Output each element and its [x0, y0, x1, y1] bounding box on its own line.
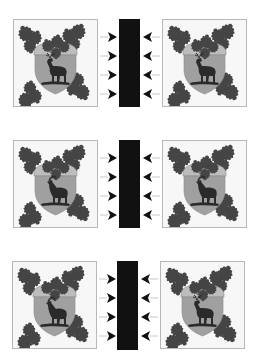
arrow-right-icon — [100, 191, 118, 201]
emblem-row-2 — [0, 140, 262, 229]
arrow-left-icon — [142, 153, 160, 163]
arrow-left-icon — [142, 172, 160, 182]
black-barrier-bar — [119, 140, 140, 228]
arrow-right-icon — [99, 293, 117, 303]
arrow-left-icon — [140, 312, 158, 322]
arrow-left-icon — [140, 293, 158, 303]
arrow-right-icon — [100, 32, 118, 42]
emblem-row-3 — [0, 261, 262, 350]
arrow-right-icon — [100, 172, 118, 182]
acorn-shield-stag-emblem-icon — [161, 262, 244, 348]
black-barrier-bar — [119, 19, 140, 107]
emblem-panel-left — [12, 261, 97, 349]
emblem-panel-left — [13, 19, 98, 107]
acorn-shield-stag-emblem-icon — [163, 20, 246, 106]
black-barrier-bar — [117, 261, 138, 350]
arrow-left-icon — [142, 51, 160, 61]
emblem-panel-right — [162, 140, 247, 228]
acorn-shield-goat-emblem-icon — [14, 141, 97, 227]
acorn-shield-goat-emblem-icon — [163, 141, 246, 227]
arrow-left-icon — [142, 32, 160, 42]
arrow-right-icon — [100, 89, 118, 99]
emblem-row-1 — [0, 19, 262, 108]
arrow-right-icon — [99, 274, 117, 284]
arrow-left-icon — [142, 70, 160, 80]
arrow-left-icon — [142, 191, 160, 201]
emblem-panel-right — [162, 19, 247, 107]
arrow-right-icon — [100, 51, 118, 61]
acorn-shield-stag-emblem-icon — [14, 20, 97, 106]
arrow-right-icon — [100, 153, 118, 163]
arrow-left-icon — [140, 274, 158, 284]
emblem-panel-left — [13, 140, 98, 228]
arrow-right-icon — [100, 70, 118, 80]
acorn-shield-goat-emblem-icon — [13, 262, 96, 348]
arrow-left-icon — [142, 89, 160, 99]
arrow-right-icon — [100, 210, 118, 220]
arrow-left-icon — [140, 331, 158, 341]
arrow-left-icon — [142, 210, 160, 220]
emblem-panel-right — [160, 261, 245, 349]
arrow-right-icon — [99, 312, 117, 322]
arrow-right-icon — [99, 331, 117, 341]
